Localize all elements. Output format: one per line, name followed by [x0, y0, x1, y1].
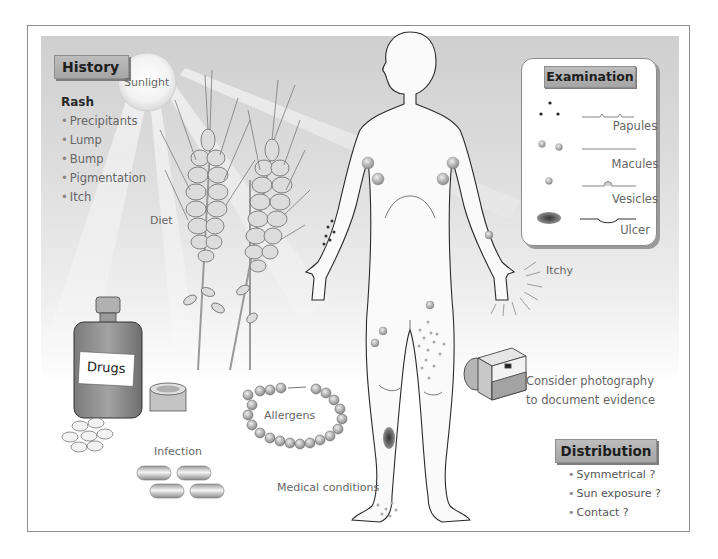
- drugs-label: Drugs: [87, 359, 126, 376]
- history-tag: History: [54, 55, 129, 79]
- allergens-label: Allergens: [264, 409, 315, 422]
- human-body-figure: [306, 32, 514, 522]
- history-item: •Lump: [61, 131, 146, 150]
- history-item: •Precipitants: [61, 112, 146, 131]
- distribution-tag: Distribution: [555, 439, 657, 463]
- itchy-label: Itchy: [546, 264, 573, 277]
- photography-note-line2: to document evidence: [526, 393, 655, 407]
- distribution-item: •Symmetrical ?: [568, 465, 661, 484]
- lesion-label-macules: Macules: [605, 157, 665, 171]
- examination-panel: Examination Papules Macules Vesicles Ulc…: [521, 58, 657, 246]
- vesicles-profile: [582, 182, 636, 187]
- history-item: •Pigmentation: [61, 169, 146, 188]
- infection-label: Infection: [154, 445, 202, 458]
- history-list: Rash •Precipitants •Lump •Bump •Pigmenta…: [61, 93, 146, 207]
- tablets-icon: [62, 418, 113, 452]
- vesicles-icon: [546, 178, 553, 185]
- ulcer-icon: [537, 212, 561, 224]
- diet-label: Diet: [150, 214, 173, 227]
- medical-conditions-label: Medical conditions: [277, 481, 379, 494]
- lesion-label-vesicles: Vesicles: [605, 192, 665, 206]
- macules-icon: [539, 141, 563, 151]
- distribution-item: •Contact ?: [568, 503, 661, 522]
- history-item: •Itch: [61, 188, 146, 207]
- distribution-list: •Symmetrical ? •Sun exposure ? •Contact …: [568, 465, 661, 522]
- photography-note-line1: Consider photography: [526, 374, 654, 388]
- papules-icon: [539, 101, 559, 115]
- bacteria-icon: [137, 466, 224, 498]
- bottle-cap-icon: [150, 383, 186, 411]
- distribution-item: •Sun exposure ?: [568, 484, 661, 503]
- history-heading: Rash: [61, 93, 146, 112]
- lesion-label-papules: Papules: [605, 119, 665, 133]
- leg-ulcer: [383, 427, 395, 449]
- history-item: •Bump: [61, 150, 146, 169]
- papules-profile: [582, 114, 634, 117]
- lesion-label-ulcer: Ulcer: [605, 223, 665, 237]
- camera-icon: [464, 348, 526, 400]
- sunlight-label: Sunlight: [124, 76, 169, 89]
- lesion-glyphs: [522, 59, 656, 245]
